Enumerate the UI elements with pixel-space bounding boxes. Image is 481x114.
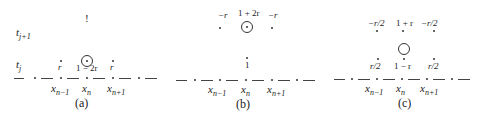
row-label-t-j: tj bbox=[16, 58, 21, 73]
grid-dash bbox=[458, 79, 470, 80]
row-label-t-j-plus-1: tj+1 bbox=[16, 26, 31, 41]
grid-dot bbox=[376, 78, 378, 80]
x-label-n-plus-1: xn+1 bbox=[420, 82, 438, 97]
x-label-n-plus-1: xn+1 bbox=[267, 83, 285, 98]
x-label-n: xn bbox=[396, 82, 405, 97]
grid-dash bbox=[119, 78, 131, 79]
lower-weight-left: r/2 bbox=[370, 61, 381, 71]
upper-weight-center: 1 + r bbox=[396, 18, 413, 28]
x-label-n-minus-1: xn−1 bbox=[365, 82, 383, 97]
grid-dot bbox=[426, 78, 428, 80]
weight-right: r bbox=[110, 62, 114, 72]
weight-dot bbox=[219, 27, 221, 29]
grid-dash bbox=[41, 78, 53, 79]
weight-dot bbox=[376, 30, 378, 32]
grid-dash bbox=[334, 79, 345, 80]
center-node-circle bbox=[398, 43, 410, 55]
grid-dash bbox=[226, 80, 238, 81]
grid-dot bbox=[351, 78, 353, 80]
caption-b: (b) bbox=[236, 97, 250, 112]
center-node-dot bbox=[86, 60, 88, 62]
weight-dot bbox=[403, 58, 405, 60]
grid-dot bbox=[138, 77, 140, 79]
upper-weight-left: −r/2 bbox=[368, 18, 385, 28]
grid-dash bbox=[358, 79, 370, 80]
grid-dot bbox=[219, 79, 221, 81]
x-label-n: xn bbox=[241, 83, 250, 98]
grid-dot bbox=[34, 77, 36, 79]
weight-dot bbox=[271, 27, 273, 29]
grid-dash bbox=[93, 78, 105, 79]
center-node-dot bbox=[246, 26, 248, 28]
weight-dot bbox=[433, 30, 435, 32]
grid-dot bbox=[112, 77, 114, 79]
weight-dot bbox=[433, 58, 435, 60]
grid-dash bbox=[383, 79, 395, 80]
x-label-n-plus-1: xn+1 bbox=[107, 82, 125, 97]
grid-dash bbox=[67, 78, 79, 79]
x-label-n-minus-1: xn−1 bbox=[208, 83, 226, 98]
grid-dot bbox=[86, 77, 88, 79]
weight-left: −r bbox=[218, 10, 228, 20]
grid-dot bbox=[296, 79, 298, 81]
lower-weight-right: r/2 bbox=[428, 61, 439, 71]
grid-dash bbox=[201, 80, 213, 81]
grid-dash bbox=[433, 79, 445, 80]
caption-a: (a) bbox=[75, 96, 88, 111]
upper-marker: ! bbox=[85, 12, 89, 24]
weight-center: 1 − 2r bbox=[76, 63, 98, 73]
x-label-n-minus-1: xn−1 bbox=[51, 82, 69, 97]
grid-dash bbox=[252, 80, 264, 81]
weight-dot bbox=[246, 57, 248, 59]
grid-dot bbox=[271, 79, 273, 81]
weight-right: −r bbox=[268, 10, 278, 20]
grid-dash bbox=[408, 79, 420, 80]
lower-weight-center: 1 − r bbox=[394, 61, 411, 71]
weight-dot bbox=[402, 30, 404, 32]
grid-dash bbox=[303, 80, 315, 81]
grid-dash bbox=[278, 80, 290, 81]
upper-weight-right: −r/2 bbox=[421, 18, 438, 28]
grid-dot bbox=[401, 78, 403, 80]
weight-dot bbox=[377, 58, 379, 60]
weight-left: r bbox=[58, 62, 62, 72]
grid-dot bbox=[245, 79, 247, 81]
x-label-n: xn bbox=[82, 82, 91, 97]
grid-dash bbox=[176, 80, 187, 81]
grid-dash bbox=[14, 78, 24, 79]
weight-center: 1 + 2r bbox=[238, 8, 260, 18]
lower-marker: 1 bbox=[245, 60, 250, 70]
grid-dot bbox=[451, 78, 453, 80]
caption-c: (c) bbox=[398, 96, 411, 111]
grid-dot bbox=[60, 77, 62, 79]
grid-dash bbox=[145, 78, 157, 79]
grid-dot bbox=[194, 79, 196, 81]
